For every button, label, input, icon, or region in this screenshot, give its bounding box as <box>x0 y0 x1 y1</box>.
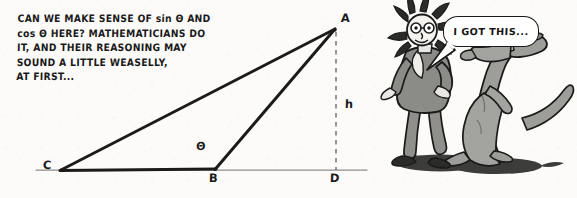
vertex-label-C: C <box>43 158 52 172</box>
speech-bubble: I GOT THIS... <box>443 16 539 47</box>
vertex-A-dot <box>333 28 336 31</box>
vertex-C-dot <box>60 169 63 172</box>
vertex-label-B: B <box>209 171 218 185</box>
vertex-label-D: D <box>330 171 340 185</box>
angle-label-theta: Θ <box>196 140 206 153</box>
speech-bubble-text: I GOT THIS... <box>442 16 539 47</box>
triangle-diagram <box>0 0 380 198</box>
vertex-label-A: A <box>341 11 350 25</box>
side-CB <box>60 169 216 171</box>
altitude-label-h: h <box>345 97 354 111</box>
side-BA <box>215 29 335 170</box>
comic-panel: CAN WE MAKE SENSE OF sin Θ AND cos Θ HER… <box>0 0 577 198</box>
